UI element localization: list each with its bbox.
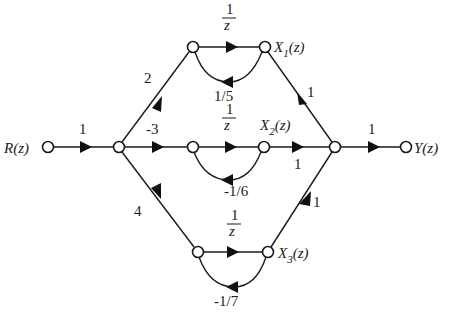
label-x3: X3(z) xyxy=(277,245,309,265)
arrow-icon xyxy=(227,246,239,258)
node-output xyxy=(401,142,412,153)
label-x2: X2(z) xyxy=(259,117,291,137)
delay-top-num: 1 xyxy=(226,1,234,17)
feedback-arc-top xyxy=(195,52,262,82)
arrow-icon xyxy=(226,281,238,293)
delay-bottom-den: z xyxy=(228,223,235,239)
delay-bottom-num: 1 xyxy=(231,207,239,223)
arrow-icon xyxy=(292,141,304,153)
gain-to-top: 2 xyxy=(144,70,152,86)
feedback-arc-middle xyxy=(194,152,261,180)
arrow-icon xyxy=(368,141,380,153)
gain-x2-to-sum: 1 xyxy=(294,156,302,172)
signal-flow-graph: R(z) Y(z) X1(z) X2(z) X3(z) 1 2 -3 4 1 z… xyxy=(0,0,454,322)
delay-top-den: z xyxy=(223,17,230,33)
arrow-icon xyxy=(152,96,162,112)
node-x2 xyxy=(259,142,270,153)
gain-bottom-feedback: -1/7 xyxy=(214,293,239,309)
gain-to-middle: -3 xyxy=(146,121,159,137)
delay-middle-den: z xyxy=(223,117,230,133)
node-top-left xyxy=(188,42,199,53)
node-x3 xyxy=(263,247,274,258)
label-x1: X1(z) xyxy=(273,39,305,59)
label-output: Y(z) xyxy=(414,140,438,157)
node-x1 xyxy=(260,42,271,53)
arrow-icon xyxy=(80,141,92,153)
edge-x3-to-sum xyxy=(271,152,332,247)
gain-x3-to-sum: 1 xyxy=(313,194,321,210)
gain-output: 1 xyxy=(368,121,376,137)
node-input xyxy=(43,142,54,153)
node-sum xyxy=(330,142,341,153)
arrow-icon xyxy=(152,141,164,153)
node-split xyxy=(114,142,125,153)
gain-x1-to-sum: 1 xyxy=(307,84,315,100)
arrow-icon xyxy=(297,92,307,105)
gain-to-bottom: 4 xyxy=(134,203,142,219)
gain-top-feedback: 1/5 xyxy=(214,88,233,104)
gain-input: 1 xyxy=(79,121,87,137)
edge-to-bottom xyxy=(122,152,194,247)
label-input: R(z) xyxy=(3,140,29,157)
gain-middle-feedback: -1/6 xyxy=(224,183,249,199)
feedback-arc-bottom xyxy=(199,257,266,287)
arrow-icon xyxy=(225,141,237,153)
arrow-icon xyxy=(226,41,238,53)
arrow-icon xyxy=(221,76,233,88)
node-middle-left xyxy=(188,142,199,153)
node-bottom-left xyxy=(193,247,204,258)
